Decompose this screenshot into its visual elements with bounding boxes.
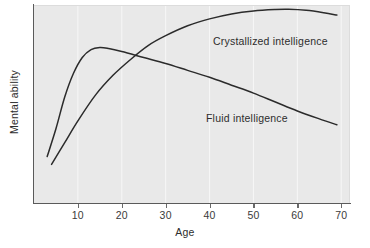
x-tick-mark [122,204,123,208]
curve-crystallized [52,9,337,164]
x-tick-mark [78,204,79,208]
curve-label-crystallized: Crystallized intelligence [213,35,328,47]
x-tick-mark [297,204,298,208]
x-axis-title: Age [0,226,370,238]
x-tick-label: 70 [335,209,347,221]
x-tick-label: 40 [204,209,216,221]
x-tick-mark [166,204,167,208]
x-tick-mark [341,204,342,208]
x-tick-label: 20 [116,209,128,221]
x-axis-line [33,203,351,204]
x-tick-mark [210,204,211,208]
chart-figure: 10203040506070 Age Mental ability Crysta… [0,0,370,248]
data-curves [47,9,337,164]
y-axis-title: Mental ability [8,42,20,162]
y-axis-line [33,4,34,204]
x-tick-mark [253,204,254,208]
x-tick-label: 60 [291,209,303,221]
x-tick-label: 10 [72,209,84,221]
x-tick-label: 30 [160,209,172,221]
x-tick-label: 50 [247,209,259,221]
curve-label-fluid: Fluid intelligence [206,112,288,124]
